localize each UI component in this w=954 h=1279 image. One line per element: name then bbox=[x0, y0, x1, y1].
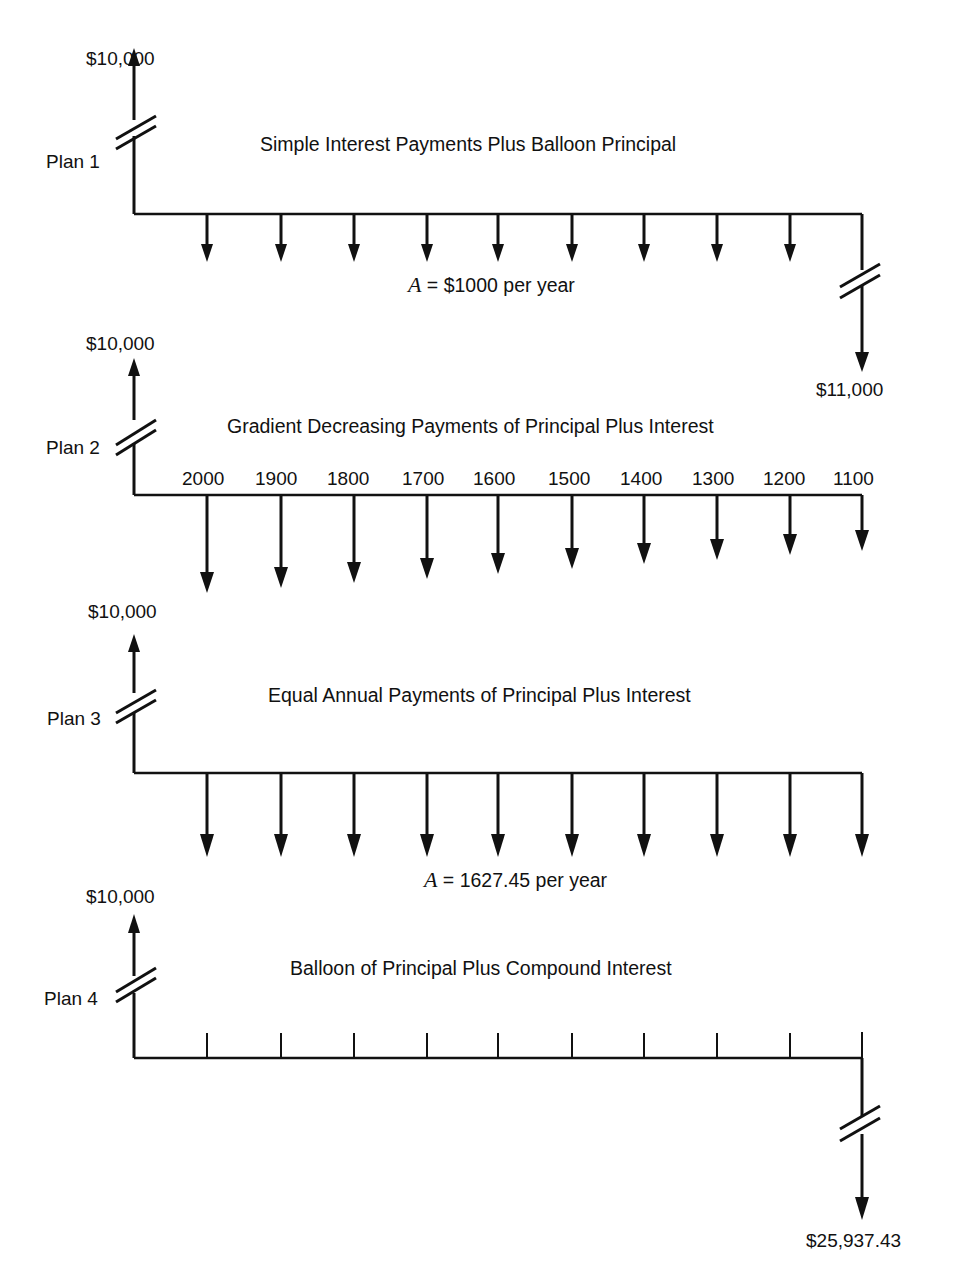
payment-value: 1500 bbox=[548, 469, 590, 488]
arrow-down-icon bbox=[855, 1197, 869, 1220]
arrow-up-icon bbox=[128, 914, 140, 933]
plan-4-period-ticks bbox=[207, 1032, 862, 1058]
plan-2-title: Gradient Decreasing Payments of Principa… bbox=[227, 417, 714, 437]
plan-1-balloon-break-mark bbox=[840, 275, 880, 298]
payment-value: 1600 bbox=[473, 469, 515, 488]
plan-1-receipt-label: $10,000 bbox=[86, 49, 155, 68]
plan-2-name: Plan 2 bbox=[46, 438, 100, 457]
annuity-variable: A bbox=[424, 867, 437, 892]
plan-3-name: Plan 3 bbox=[47, 709, 101, 728]
plan-3-receipt-label: $10,000 bbox=[88, 602, 157, 621]
arrow-up-icon bbox=[128, 634, 140, 652]
payment-value: 1700 bbox=[402, 469, 444, 488]
plan-1-balloon-label: $11,000 bbox=[816, 380, 883, 399]
plan-1-balloon-break-mark bbox=[840, 264, 880, 287]
plan-3-break-mark bbox=[116, 690, 156, 713]
plan-4-balloon-label: $25,937.43 bbox=[806, 1231, 901, 1250]
plan-3-diagram bbox=[116, 634, 869, 857]
plan-4-receipt-label: $10,000 bbox=[86, 887, 155, 906]
plan-1-title: Simple Interest Payments Plus Balloon Pr… bbox=[260, 135, 676, 155]
plan-1-payment-arrows bbox=[201, 214, 796, 262]
plan-1-name: Plan 1 bbox=[46, 152, 100, 171]
payment-value: 1300 bbox=[692, 469, 734, 488]
cash-flow-diagrams bbox=[0, 0, 954, 1279]
arrow-down-icon bbox=[855, 352, 869, 372]
plan-1-annotation: A = $1000 per year bbox=[408, 274, 575, 296]
plan-1-diagram bbox=[116, 48, 880, 372]
plan-4-balloon-break-mark bbox=[840, 1118, 880, 1141]
plan-3-payment-arrows bbox=[200, 773, 869, 857]
plan-3-break-mark bbox=[116, 700, 156, 723]
payment-value: 1400 bbox=[620, 469, 662, 488]
annuity-variable: A bbox=[408, 272, 421, 297]
plan-3-title: Equal Annual Payments of Principal Plus … bbox=[268, 686, 691, 706]
plan-2-receipt-label: $10,000 bbox=[86, 334, 155, 353]
payment-value: 2000 bbox=[182, 469, 224, 488]
arrow-up-icon bbox=[128, 358, 140, 376]
plan-1-break-mark bbox=[116, 116, 156, 139]
payment-value: 1100 bbox=[833, 469, 874, 488]
plan-4-name: Plan 4 bbox=[44, 989, 98, 1008]
plan-1-break-mark bbox=[116, 126, 156, 149]
plan-4-balloon-break-mark bbox=[840, 1106, 880, 1129]
payment-value: 1900 bbox=[255, 469, 297, 488]
plan-4-title: Balloon of Principal Plus Compound Inter… bbox=[290, 959, 672, 979]
plan-2-payment-arrows bbox=[200, 495, 869, 593]
payment-value: 1200 bbox=[763, 469, 805, 488]
plan-3-annotation: A = 1627.45 per year bbox=[424, 869, 607, 891]
payment-value: 1800 bbox=[327, 469, 369, 488]
